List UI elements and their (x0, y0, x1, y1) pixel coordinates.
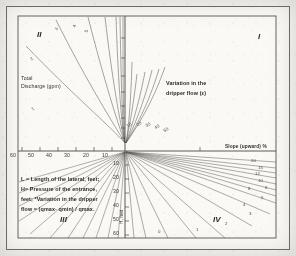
legend-line-1: L = Length of the lateral, feet; (21, 176, 121, 182)
q4-slope-label: 20 (251, 159, 256, 164)
quadrant-3-pressure-curves (19, 152, 125, 238)
y-tick-label: 50 (113, 217, 119, 223)
q4-slope-label: 3 (249, 212, 252, 217)
x-tick-label: 50 (28, 153, 34, 159)
q4-slope-label: 5 (261, 196, 264, 201)
x-tick-label: 40 (46, 153, 52, 159)
x-tick-label: 20 (83, 153, 89, 159)
x-axis-ticks-left (22, 147, 112, 151)
q4-slope-label: 12 (255, 172, 260, 177)
quadrant-1-numeral: I (258, 33, 260, 42)
x-tick-label: 30 (64, 153, 70, 159)
total-discharge-label-line2: Discharge (gpm) (21, 84, 61, 90)
q4-slope-label: 4 (243, 203, 246, 208)
quadrant-4-slope-lines (126, 152, 276, 238)
quadrant-2-numeral: II (37, 31, 42, 40)
x-tick-label: 10 (102, 153, 108, 159)
slope-header-label: Slope (upward) % (225, 144, 267, 149)
quadrant-4-numeral: IV (213, 216, 221, 225)
quadrant-3-numeral: III (60, 216, 67, 225)
quadrant-1-variation-curves (126, 62, 165, 143)
q4-slope-label: 1 (196, 228, 199, 233)
y-tick-label: 10 (113, 161, 119, 167)
legend-line-3: feet; *Variation in the dripper (21, 196, 121, 202)
total-discharge-label-line1: Total (21, 76, 32, 82)
legend-line-4: flow = (qmax- qmin) / qmax. (21, 206, 121, 212)
variation-label-line1: Variation in the (166, 80, 206, 86)
y-tick-label: 60 (113, 231, 119, 237)
variation-label-line2: dripper flow (ε) (166, 90, 206, 96)
x-tick-label: 60 (10, 153, 16, 159)
q4-slope-label: 8 (248, 187, 251, 192)
legend-line-2: H= Pressure of the entrance, (21, 186, 121, 192)
q4-slope-label: 0 (158, 230, 161, 235)
q4-slope-label: 10 (258, 179, 263, 184)
q4-slope-label: 2 (225, 222, 228, 227)
q4-slope-label: 6 (265, 186, 268, 191)
chart-page: I II III IV Total Discharge (gpm) Variat… (0, 0, 296, 256)
